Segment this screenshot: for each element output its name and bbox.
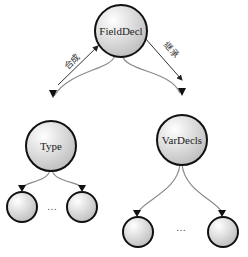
vardecls-children-ellipsis: … xyxy=(176,222,186,233)
vardecls-child1-marker xyxy=(133,210,141,217)
node-type-label: Type xyxy=(40,140,62,152)
type-children-ellipsis: … xyxy=(47,201,57,212)
node-vardecls-label: VarDecls xyxy=(162,134,202,146)
edge-type-child1 xyxy=(22,170,50,188)
vardecls-child2-marker xyxy=(218,210,226,217)
type-child2-marker xyxy=(78,185,86,192)
inherit-label: 继承 xyxy=(162,39,182,60)
edge-vardecls-child2 xyxy=(182,164,222,212)
node-vardecls-child-2 xyxy=(208,217,238,247)
synthesize-label: 合成 xyxy=(62,51,83,72)
type-child1-marker xyxy=(18,185,26,192)
node-vardecls: VarDecls xyxy=(157,115,207,165)
edge-fielddecl-type xyxy=(54,55,115,96)
node-fielddecl-label: FieldDecl xyxy=(99,25,142,37)
attribute-tree-diagram: 合成 继承 FieldDecl Type VarDecls … … xyxy=(0,0,248,257)
edge-vardecls-child1 xyxy=(138,164,180,212)
edge-type-child2 xyxy=(52,170,82,188)
node-vardecls-child-1 xyxy=(123,217,153,247)
node-fielddecl: FieldDecl xyxy=(95,5,147,57)
edge-fielddecl-vardecls xyxy=(122,55,180,93)
node-type-child-2 xyxy=(67,192,97,222)
node-type: Type xyxy=(26,121,76,171)
node-type-child-1 xyxy=(7,192,37,222)
